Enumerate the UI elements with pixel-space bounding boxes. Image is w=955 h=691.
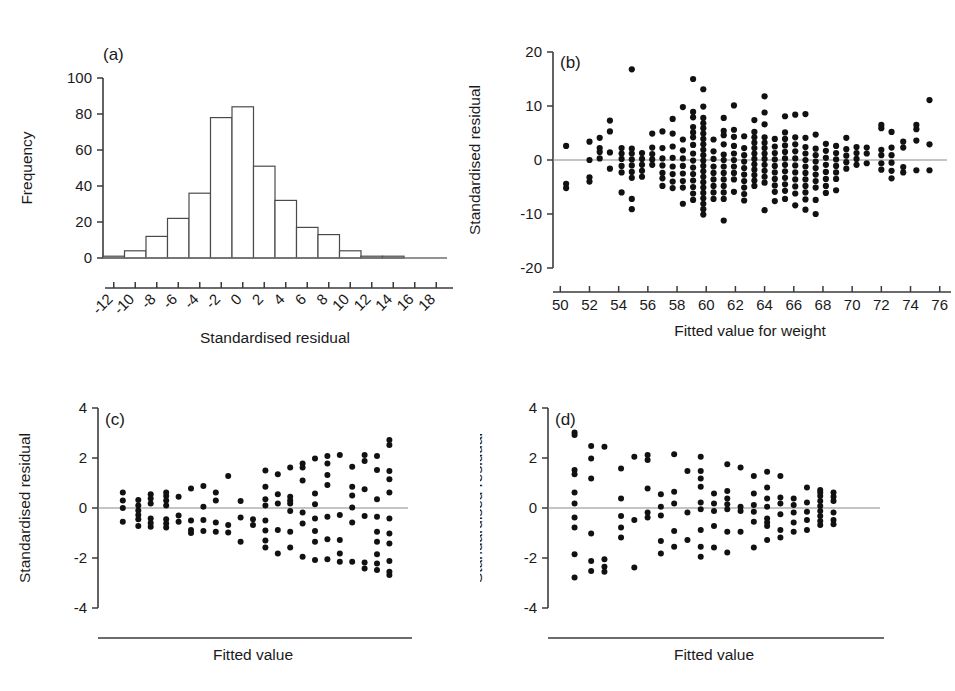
data-point [200, 528, 206, 534]
data-point [120, 490, 126, 496]
data-point [700, 163, 706, 169]
data-point [888, 129, 894, 135]
data-point [782, 142, 788, 148]
data-point [135, 523, 141, 529]
data-point [782, 136, 788, 142]
data-point [639, 168, 645, 174]
data-point [200, 483, 206, 489]
data-point [649, 144, 655, 150]
data-point [802, 189, 808, 195]
data-point [888, 160, 894, 166]
data-point [671, 451, 677, 457]
data-point [618, 145, 624, 151]
data-point [777, 535, 783, 541]
data-point [572, 432, 578, 438]
data-point [802, 144, 808, 150]
data-point [833, 187, 839, 193]
data-point [597, 149, 603, 155]
panel-c-y-tick-label: -4 [74, 599, 87, 616]
data-point [670, 171, 676, 177]
data-point [213, 529, 219, 535]
data-point [782, 168, 788, 174]
data-point [926, 167, 932, 173]
data-point [792, 141, 798, 147]
data-point [188, 486, 194, 492]
data-point [312, 491, 318, 497]
panel-b-x-tick-label: 56 [640, 296, 657, 313]
panel-c-scatter: (c)-4-2024Standardised residualFitted va… [0, 370, 470, 691]
data-point [888, 175, 894, 181]
data-point [843, 159, 849, 165]
data-point [300, 478, 306, 484]
data-point [751, 161, 757, 167]
data-point [238, 498, 244, 504]
data-point [791, 502, 797, 508]
panel-a-y-tick-label: 100 [67, 69, 92, 86]
panel-a-x-tick-label: 4 [270, 290, 288, 308]
data-point [645, 486, 651, 492]
data-point [690, 197, 696, 203]
panel-b-scatter: (b)-20-1001020Standardised residual50525… [450, 0, 955, 360]
data-point [802, 176, 808, 182]
data-point [853, 156, 859, 162]
panel-c-y-axis-title: Standardised residual [16, 433, 33, 583]
data-point [710, 156, 716, 162]
data-point [374, 529, 380, 535]
data-point [710, 189, 716, 195]
data-point [700, 179, 706, 185]
panel-b-x-tick-label: 52 [581, 296, 598, 313]
data-point [700, 115, 706, 121]
data-point [670, 155, 676, 161]
data-point [618, 169, 624, 175]
data-point [639, 174, 645, 180]
data-point [711, 508, 717, 514]
data-point [802, 157, 808, 163]
data-point [225, 530, 231, 536]
data-point [721, 115, 727, 121]
data-point [680, 170, 686, 176]
data-point [262, 503, 268, 509]
data-point [777, 527, 783, 533]
data-point [262, 484, 268, 490]
data-point [878, 125, 884, 131]
panel-b-x-tick-label: 66 [785, 296, 802, 313]
data-point [751, 545, 757, 551]
data-point [900, 139, 906, 145]
data-point [791, 510, 797, 516]
data-point [782, 155, 788, 161]
data-point [804, 485, 810, 491]
panel-d-scatter: (d)-4-2024Standardised residualFitted va… [480, 370, 955, 691]
panel-a-x-tick-label: -2 [202, 290, 223, 311]
data-point [698, 484, 704, 490]
data-point [312, 539, 318, 545]
data-point [792, 190, 798, 196]
data-point [698, 468, 704, 474]
data-point [700, 152, 706, 158]
data-point [823, 183, 829, 189]
data-point [213, 520, 219, 526]
data-point [888, 168, 894, 174]
panel-a-x-tick-label: 2 [248, 290, 266, 308]
data-point [700, 136, 706, 142]
data-point [741, 152, 747, 158]
data-point [374, 496, 380, 502]
data-point [864, 160, 870, 166]
data-point [761, 156, 767, 162]
data-point [588, 456, 594, 462]
data-point [362, 560, 368, 566]
panel-a-y-axis-title: Frequency [18, 131, 35, 204]
data-point [680, 136, 686, 142]
panel-d-y-tick-label: 4 [529, 399, 537, 416]
panel-a-x-tick-label: -4 [180, 290, 201, 311]
panel-a-x-tick-label: -6 [159, 290, 180, 311]
data-point [563, 143, 569, 149]
data-point [670, 130, 676, 136]
data-point [618, 496, 624, 502]
data-point [802, 183, 808, 189]
data-point [135, 497, 141, 503]
data-point [878, 160, 884, 166]
data-point [721, 152, 727, 158]
data-point [262, 496, 268, 502]
data-point [772, 182, 778, 188]
data-point [275, 501, 281, 507]
